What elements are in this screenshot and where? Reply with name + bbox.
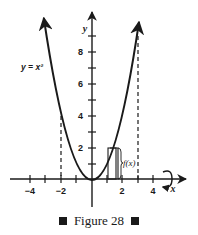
y-tick-label: 2: [78, 143, 83, 153]
caption-square-left-icon: [59, 217, 67, 225]
y-tick-label: 4: [78, 111, 83, 121]
caption-text: Figure 28: [74, 213, 124, 228]
figure-caption: Figure 28: [0, 213, 198, 229]
x-tick-label: −2: [56, 186, 66, 196]
figure-plot: −4 −2 2 4 x 2 4 6 8 y f(x): [0, 0, 198, 235]
disk-slice: [108, 148, 118, 179]
y-tick-label: 8: [78, 47, 83, 57]
x-tick-label: 2: [119, 186, 124, 196]
y-tick-label: 6: [78, 79, 83, 89]
x-tick-label: −4: [25, 186, 35, 196]
curve-equation-text: y = x²: [20, 62, 44, 72]
fx-label: f(x): [123, 158, 136, 168]
curve-equation-label: y = x²: [20, 62, 44, 72]
y-axis-label: y: [82, 23, 88, 34]
caption-square-right-icon: [131, 217, 139, 225]
x-tick-label: 4: [150, 186, 155, 196]
